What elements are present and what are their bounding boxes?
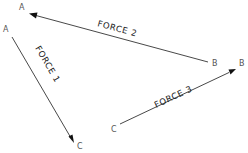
force-3-end-label: B [239,59,245,68]
force-2-arrowhead-icon [29,13,38,19]
force-3-arrowhead-icon [229,69,237,75]
force-3-vector: C B FORCE 3 [111,59,245,134]
force-1-start-label: A [3,25,9,34]
force-2-line [36,16,208,63]
force-2-start-label: B [212,59,218,68]
force-3-start-label: C [111,125,117,134]
force-2-label: FORCE 2 [96,18,138,38]
force-diagram: A C FORCE 1 A B FORCE 2 C B FORCE 3 [0,0,248,153]
force-2-end-label: A [19,3,25,12]
force-3-label: FORCE 3 [153,84,194,110]
force-1-label: FORCE 1 [33,44,62,84]
force-1-vector: A C FORCE 1 [3,25,83,151]
force-1-end-label: C [77,142,83,151]
